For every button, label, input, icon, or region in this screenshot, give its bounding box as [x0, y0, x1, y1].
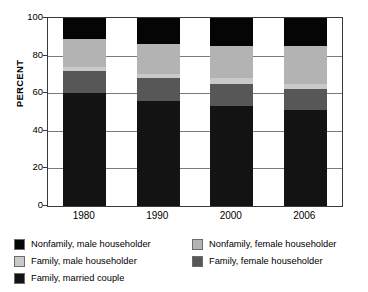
legend-row: Family, married couple: [14, 270, 362, 287]
bar-segment-1990-nonfamily_male_householder: [137, 18, 180, 44]
legend-item: Nonfamily, male householder: [14, 239, 192, 250]
bar-segment-2000-family_married_couple: [210, 106, 253, 206]
bar-segment-1990-family_married_couple: [137, 101, 180, 206]
stacked-bar-chart: PERCENT 020406080100 1980199020002006 No…: [0, 0, 368, 292]
bar-segment-2006-family_female_householder: [284, 89, 327, 110]
y-tick-label-80: 80: [3, 50, 43, 59]
legend-item: Nonfamily, female householder: [192, 239, 362, 250]
y-tick-label-60: 60: [3, 87, 43, 96]
bar-segment-1980-nonfamily_female_householder: [63, 39, 106, 67]
y-tick-label-40: 40: [3, 125, 43, 134]
bar-segment-1980-nonfamily_male_householder: [63, 18, 106, 39]
y-tick-label-0: 0: [3, 200, 43, 209]
bar-segment-1980-family_female_householder: [63, 71, 106, 94]
family-married-swatch: [14, 273, 25, 284]
plot-area: [47, 17, 343, 207]
x-tick-label-2000: 2000: [201, 210, 261, 221]
legend-label: Family, male householder: [31, 256, 137, 267]
bar-segment-2000-nonfamily_male_householder: [210, 18, 253, 46]
bar-1990: [137, 18, 180, 206]
bar-segment-1990-family_female_householder: [137, 78, 180, 101]
legend-row: Nonfamily, male householderNonfamily, fe…: [14, 236, 362, 253]
bar-segment-2000-nonfamily_female_householder: [210, 46, 253, 78]
legend-label: Nonfamily, female householder: [209, 239, 336, 250]
bar-segment-2006-nonfamily_male_householder: [284, 18, 327, 46]
nonfamily-female-swatch: [192, 239, 203, 250]
bar-2006: [284, 18, 327, 206]
x-tick-label-1980: 1980: [54, 210, 114, 221]
y-tick-label-100: 100: [3, 12, 43, 21]
legend-item: Family, male householder: [14, 256, 192, 267]
nonfamily-male-swatch: [14, 239, 25, 250]
bar-1980: [63, 18, 106, 206]
chart-legend: Nonfamily, male householderNonfamily, fe…: [14, 236, 362, 287]
legend-item: Family, married couple: [14, 273, 192, 284]
x-tick-label-2006: 2006: [274, 210, 334, 221]
x-tick-label-1990: 1990: [127, 210, 187, 221]
bar-segment-1980-family_married_couple: [63, 93, 106, 206]
bar-2000: [210, 18, 253, 206]
family-male-swatch: [14, 256, 25, 267]
legend-label: Nonfamily, male householder: [31, 239, 151, 250]
legend-row: Family, male householderFamily, female h…: [14, 253, 362, 270]
y-tick-label-20: 20: [3, 162, 43, 171]
bar-segment-2000-family_female_householder: [210, 84, 253, 107]
bar-segment-2006-family_married_couple: [284, 110, 327, 206]
legend-label: Family, female householder: [209, 256, 323, 267]
family-female-swatch: [192, 256, 203, 267]
bar-segment-1990-nonfamily_female_householder: [137, 44, 180, 74]
legend-label: Family, married couple: [31, 273, 124, 284]
bar-segment-2006-nonfamily_female_householder: [284, 46, 327, 84]
legend-item: Family, female householder: [192, 256, 362, 267]
